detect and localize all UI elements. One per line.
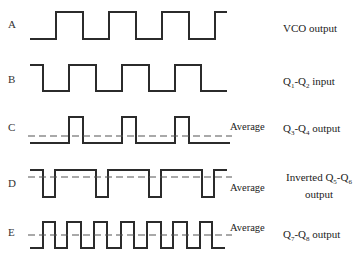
row-letter-b: B <box>8 73 15 85</box>
label-q3-q4-output: Q3-Q4 output <box>283 122 340 139</box>
waveform-a <box>30 12 227 39</box>
row-letter-c: C <box>8 121 15 133</box>
waveform-c <box>30 117 230 143</box>
label-vco-output: VCO output <box>283 22 337 34</box>
row-letter-e: E <box>8 226 15 238</box>
waveform-d <box>30 170 227 197</box>
row-letter-a: A <box>8 18 16 30</box>
label-q7-q8-output: Q7-Q8 output <box>283 228 340 245</box>
label-inverted-q5-q6-output: Inverted Q5-Q6output <box>281 171 357 200</box>
label-output-line2: output <box>305 188 333 200</box>
waveform-b <box>30 65 227 91</box>
average-label-e: Average <box>230 222 265 233</box>
row-letter-d: D <box>8 177 16 189</box>
average-label-d: Average <box>230 182 265 193</box>
label-q1-q2-input: Q1-Q2 input <box>283 75 335 92</box>
average-label-c: Average <box>230 121 265 132</box>
